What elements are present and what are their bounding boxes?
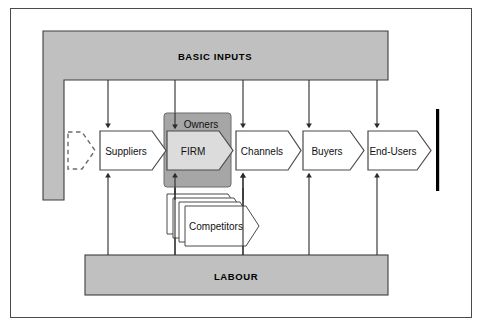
chevron-buyers-shape: [303, 131, 364, 170]
competitors-stack: [167, 194, 259, 246]
diagram-canvas: BASIC INPUTS LABOUR Owners Suppliers FIR…: [0, 0, 484, 331]
chevron-placeholder: [68, 132, 95, 169]
band-labour: [85, 255, 388, 295]
chevron-endusers-shape: [368, 131, 431, 170]
input-arrows-group: [108, 80, 377, 127]
chevron-channels-shape: [236, 131, 301, 170]
chevron-suppliers-shape: [100, 131, 166, 170]
diagram-vector-layer: [0, 0, 484, 331]
terminator-bar: [436, 109, 439, 191]
competitors-card-1: [185, 206, 259, 246]
chevron-firm-shape: [167, 131, 233, 170]
band-labour-shape: [85, 255, 388, 295]
